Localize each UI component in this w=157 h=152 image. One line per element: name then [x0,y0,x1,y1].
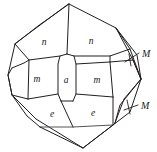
crystal-drawing: n n m a m e e M M [0,0,157,152]
edge-bottom-apex-inner-left [40,127,83,148]
edge-a-left [58,56,61,101]
edge-m-left-inner [28,60,29,99]
edge-top-apex-to-a-top [67,4,69,54]
face-label-n-right: n [89,36,94,46]
edge-e-right-bottom [73,125,113,127]
face-label-n-left: n [42,37,47,47]
index-label-M-upper: M [141,48,151,59]
face-label-e-left: e [50,109,54,119]
edge-m-right-to-vertex [110,60,141,79]
edge-bottom-apex-inner-right [83,125,113,148]
edge-e-right-outer [113,97,115,125]
face-label-a-center: a [64,75,69,85]
face-label-m-right: m [94,75,101,85]
edge-m-left-to-a [28,94,58,99]
edge-m-face-lower-inner [115,79,141,123]
face-label-e-right: e [91,108,95,118]
edge-m-right-bottom [76,94,113,97]
crystal-outline [8,4,141,148]
index-label-M-lower: M [140,100,150,111]
edge-n-right-lower [67,49,130,56]
crystal-figure: n n m a m e e M M [0,0,157,152]
edge-a-right [73,56,76,101]
m-lower-leader-line [124,100,138,114]
edge-m-left-top [12,60,29,68]
edge-e-divider [61,101,73,127]
edge-m-right-top [76,62,110,64]
face-label-m-left: m [34,74,41,84]
edge-m-face-lower-mid [115,79,141,123]
